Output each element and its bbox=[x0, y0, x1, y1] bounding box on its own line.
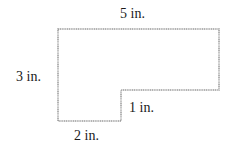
l-shape-diagram: 5 in. 3 in. 1 in. 2 in. bbox=[0, 0, 229, 154]
left-dimension-label: 3 in. bbox=[16, 70, 41, 84]
bottom-dimension-label: 2 in. bbox=[74, 129, 99, 143]
step-dimension-label: 1 in. bbox=[129, 101, 154, 115]
top-dimension-label: 5 in. bbox=[120, 7, 145, 21]
